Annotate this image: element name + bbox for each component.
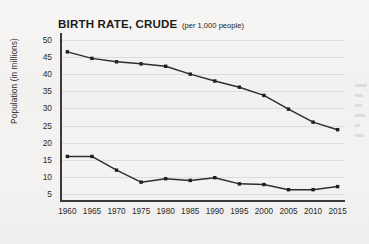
x-axis-tick-label: 2005 bbox=[279, 207, 297, 216]
lower-series-marker bbox=[311, 188, 314, 191]
lower-series-marker bbox=[287, 188, 290, 191]
y-axis-tick-label: 35 bbox=[30, 86, 52, 96]
upper-series-marker bbox=[287, 107, 290, 110]
x-axis-tick-label: 1995 bbox=[230, 207, 248, 216]
y-axis-label: Population (in millions) bbox=[9, 21, 19, 141]
lower-series-marker bbox=[66, 155, 69, 158]
x-axis-tick-label: 2000 bbox=[255, 207, 273, 216]
upper-series-marker bbox=[139, 62, 142, 65]
x-axis-tick-label: 2010 bbox=[304, 207, 322, 216]
lower-series-marker bbox=[262, 183, 265, 186]
lower-series-marker bbox=[164, 177, 167, 180]
x-axis-tick-label: 1965 bbox=[83, 207, 101, 216]
x-axis-tick-label: 1960 bbox=[58, 207, 76, 216]
y-axis-tick-label: 30 bbox=[30, 103, 52, 113]
x-axis-tick-label: 1975 bbox=[132, 207, 150, 216]
upper-series-marker bbox=[238, 85, 241, 88]
y-axis-tick-label: 20 bbox=[30, 138, 52, 148]
upper-series-marker bbox=[66, 50, 69, 53]
lower-series-marker bbox=[90, 155, 93, 158]
upper-series-marker bbox=[164, 65, 167, 68]
birth-rate-chart-figure: BIRTH RATE, CRUDE (per 1,000 people) Pop… bbox=[0, 0, 369, 244]
x-axis-tick-label: 1980 bbox=[157, 207, 175, 216]
x-axis-tick-label: 1970 bbox=[107, 207, 125, 216]
upper-series-marker bbox=[213, 79, 216, 82]
upper-series-marker bbox=[115, 60, 118, 63]
upper-series-marker bbox=[90, 57, 93, 60]
lower-series-marker bbox=[189, 179, 192, 182]
x-axis-tick-label: 2015 bbox=[329, 207, 347, 216]
x-axis-tick-labels: 1960196519701975198019851990199520002005… bbox=[60, 207, 345, 221]
lower-series-marker bbox=[115, 168, 118, 171]
upper-series-marker bbox=[262, 94, 265, 97]
y-axis-tick-label: 40 bbox=[30, 69, 52, 79]
data-series-group bbox=[60, 33, 345, 201]
y-axis-tick-label: 15 bbox=[30, 155, 52, 165]
lower-series-marker bbox=[238, 182, 241, 185]
chart-title: BIRTH RATE, CRUDE (per 1,000 people) bbox=[58, 14, 244, 32]
lower-series-line bbox=[67, 156, 337, 189]
y-axis-tick-label: 50 bbox=[30, 35, 52, 45]
y-axis-tick-label: 25 bbox=[30, 121, 52, 131]
lower-series-marker bbox=[213, 176, 216, 179]
x-axis-tick-label: 1985 bbox=[181, 207, 199, 216]
scan-bleed-artifact bbox=[355, 84, 367, 196]
lower-series-marker bbox=[139, 180, 142, 183]
y-axis-tick-label: 5 bbox=[30, 189, 52, 199]
chart-title-subtitle: (per 1,000 people) bbox=[182, 21, 244, 30]
lower-series-marker bbox=[336, 185, 339, 188]
upper-series-marker bbox=[189, 72, 192, 75]
upper-series-line bbox=[67, 52, 337, 130]
y-axis-tick-labels: 5101520253035404550 bbox=[26, 0, 52, 244]
x-axis-tick-label: 1990 bbox=[206, 207, 224, 216]
chart-title-main: BIRTH RATE, CRUDE bbox=[58, 18, 177, 30]
plot-area bbox=[60, 33, 345, 201]
upper-series-marker bbox=[311, 120, 314, 123]
upper-series-marker bbox=[336, 128, 339, 131]
y-axis-tick-label: 45 bbox=[30, 52, 52, 62]
y-axis-tick-label: 10 bbox=[30, 172, 52, 182]
